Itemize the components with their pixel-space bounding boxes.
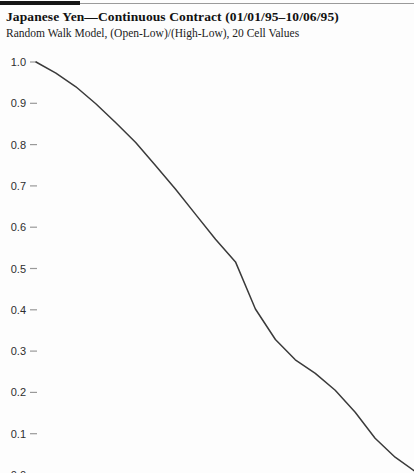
y-axis-label: 0.3 xyxy=(11,345,26,357)
y-axis-label: 0.2 xyxy=(11,386,26,398)
y-axis-label: 0.5 xyxy=(11,263,26,275)
y-axis-label: 0.1 xyxy=(11,428,26,440)
model-curve xyxy=(36,62,414,471)
y-axis-label: 0.9 xyxy=(11,97,26,109)
chart-canvas: 1.00.90.80.70.60.50.40.30.20.10.0 xyxy=(0,0,414,473)
y-axis-label: 0.8 xyxy=(11,139,26,151)
y-axis-label: 0.4 xyxy=(11,304,26,316)
y-axis-label: 1.0 xyxy=(11,56,26,68)
y-axis-label: 0.0 xyxy=(11,469,26,473)
y-axis-label: 0.7 xyxy=(11,180,26,192)
y-axis-label: 0.6 xyxy=(11,221,26,233)
